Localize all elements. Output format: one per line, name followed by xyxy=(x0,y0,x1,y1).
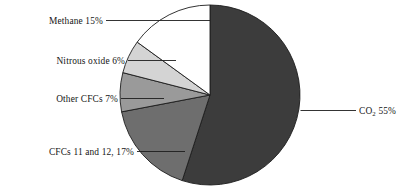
pie-label-methane: Methane 15% xyxy=(49,16,103,26)
pie-label-nitrous-oxide: Nitrous oxide 6% xyxy=(56,56,125,66)
pie-chart-figure: CO2 55% CFCs 11 and 12, 17% Other CFCs 7… xyxy=(0,0,414,192)
pie-slices xyxy=(120,5,300,185)
pie-chart-canvas: CO2 55% CFCs 11 and 12, 17% Other CFCs 7… xyxy=(0,0,414,192)
pie-label-co2-percent: 55% xyxy=(376,106,396,116)
pie-label-co2-text: CO xyxy=(359,106,372,116)
pie-label-cfcs-11-and-12: CFCs 11 and 12, 17% xyxy=(49,147,134,157)
pie-label-other-cfcs: Other CFCs 7% xyxy=(56,94,118,104)
pie-label-co2: CO2 55% xyxy=(359,106,396,117)
